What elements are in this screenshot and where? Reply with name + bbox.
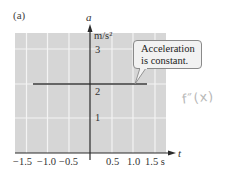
annotation-callout: Acceleration is constant.	[133, 40, 202, 69]
x-tick-neg-0-5: −0.5	[59, 156, 78, 167]
callout-pointer-joint	[140, 67, 147, 69]
x-tick-0-5: 0.5	[106, 156, 119, 167]
x-tick-neg-1-5: −1.5	[13, 156, 32, 167]
y-axis-unit: m/s²	[94, 30, 112, 41]
y-axis-arrow-icon	[88, 24, 93, 32]
x-tick-1-0: 1.0	[127, 156, 140, 167]
x-tick-neg-1-0: −1.0	[37, 156, 56, 167]
y-axis-label: a	[86, 11, 92, 23]
plot-area	[0, 0, 228, 175]
x-axis-arrow-icon	[168, 151, 176, 156]
y-tick-1: 1	[95, 112, 100, 123]
y-tick-2: 2	[95, 86, 100, 97]
callout-pointer	[135, 68, 146, 84]
x-tick-1-5: 1.5 s	[145, 156, 165, 167]
annotation-line-1: Acceleration	[141, 43, 201, 55]
annotation-line-2: is constant.	[141, 55, 201, 67]
y-tick-3: 3	[95, 44, 100, 55]
x-axis-label: t	[178, 147, 181, 159]
